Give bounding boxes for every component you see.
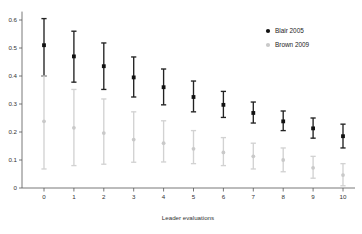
x-tick-label: 0 <box>42 193 46 200</box>
data-point-with-error-bar <box>71 31 76 82</box>
marker-blair <box>222 103 226 107</box>
x-tick-label: 2 <box>102 193 106 200</box>
marker-brown <box>162 141 166 145</box>
x-tick-label: 1 <box>72 193 76 200</box>
data-point-with-error-bar <box>131 112 136 162</box>
y-tick-label: 0.3 <box>8 100 17 107</box>
y-tick-label: 0 <box>14 184 18 191</box>
x-tick-label: 4 <box>162 193 166 200</box>
data-point-with-error-bar <box>161 69 166 105</box>
data-point-with-error-bar <box>131 57 136 97</box>
marker-blair <box>281 119 285 123</box>
x-tick-label: 10 <box>340 193 347 200</box>
data-point-with-error-bar <box>101 99 106 164</box>
marker-blair <box>341 134 345 138</box>
data-point-with-error-bar <box>251 143 256 169</box>
data-point-with-error-bar <box>161 121 166 162</box>
y-tick-label: 0.2 <box>8 128 17 135</box>
data-point-with-error-bar <box>340 124 345 148</box>
x-tick-label: 9 <box>311 193 315 200</box>
marker-blair <box>42 43 46 47</box>
legend-marker-blair-icon <box>266 29 270 33</box>
marker-blair <box>102 64 106 68</box>
y-tick-label: 0.5 <box>8 44 17 51</box>
marker-brown <box>281 158 285 162</box>
data-point-with-error-bar <box>191 131 196 164</box>
series-blair-2005 <box>41 19 345 148</box>
data-point-with-error-bar <box>101 43 106 89</box>
x-tick-label: 6 <box>222 193 226 200</box>
data-point-with-error-bar <box>340 164 345 186</box>
data-point-with-error-bar <box>311 156 316 178</box>
data-point-with-error-bar <box>251 102 256 123</box>
y-tick-label: 0.6 <box>8 16 17 23</box>
marker-brown <box>102 131 106 135</box>
x-axis: 012345678910 <box>22 188 355 200</box>
x-axis-title: Leader evaluations <box>162 214 214 221</box>
marker-blair <box>192 95 196 99</box>
legend-label: Brown 2009 <box>275 41 310 48</box>
data-point-with-error-bar <box>191 81 196 112</box>
marker-brown <box>251 154 255 158</box>
chart-legend: Blair 2005Brown 2009 <box>266 27 310 48</box>
data-point-with-error-bar <box>311 118 316 138</box>
data-point-with-error-bar <box>221 138 226 166</box>
marker-blair <box>251 111 255 115</box>
x-tick-label: 3 <box>132 193 136 200</box>
y-tick-label: 0.4 <box>8 72 17 79</box>
marker-blair <box>132 76 136 80</box>
marker-brown <box>222 151 226 155</box>
marker-blair <box>72 55 76 59</box>
data-point-with-error-bar <box>281 148 286 172</box>
legend-label: Blair 2005 <box>275 27 304 34</box>
x-tick-label: 8 <box>281 193 285 200</box>
data-point-with-error-bar <box>41 19 46 76</box>
chart-canvas: 00.10.20.30.40.50.6 012345678910 Blair 2… <box>0 0 362 234</box>
marker-blair <box>311 126 315 130</box>
data-point-with-error-bar <box>221 91 226 117</box>
x-tick-label: 5 <box>192 193 196 200</box>
marker-brown <box>42 119 46 123</box>
legend-item: Blair 2005 <box>266 27 304 34</box>
data-point-with-error-bar <box>71 89 76 165</box>
x-tick-label: 7 <box>252 193 256 200</box>
y-axis: 00.10.20.30.40.50.6 <box>8 12 22 192</box>
marker-brown <box>192 147 196 151</box>
y-tick-label: 0.1 <box>8 156 17 163</box>
data-point-with-error-bar <box>281 111 286 131</box>
marker-brown <box>341 173 345 177</box>
marker-brown <box>311 166 315 170</box>
marker-blair <box>162 85 166 89</box>
legend-marker-brown-icon <box>266 43 270 47</box>
legend-item: Brown 2009 <box>266 41 310 48</box>
data-point-with-error-bar <box>41 76 46 169</box>
marker-brown <box>132 138 136 142</box>
marker-brown <box>72 126 76 130</box>
